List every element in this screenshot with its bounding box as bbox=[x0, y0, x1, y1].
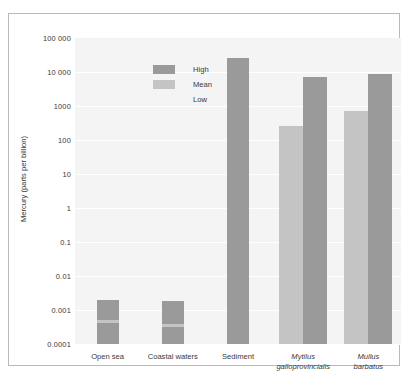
y-tick-label: 10 000 bbox=[15, 68, 71, 77]
y-tick-label: 100 000 bbox=[15, 34, 71, 43]
x-tick-label: Open sea bbox=[91, 352, 124, 362]
y-tick-label: 0.0001 bbox=[15, 340, 71, 349]
y-tick-label: 100 bbox=[15, 136, 71, 145]
y-tick-label: 1000 bbox=[15, 102, 71, 111]
legend-label: Low bbox=[193, 94, 207, 105]
bar-mean bbox=[162, 324, 184, 327]
bar-mean bbox=[344, 111, 368, 344]
bar-high bbox=[303, 77, 327, 344]
legend-label: High bbox=[193, 64, 209, 75]
x-tick-label: Sediment bbox=[222, 352, 254, 362]
y-tick-label: 0.01 bbox=[15, 272, 71, 281]
bar-mean bbox=[97, 320, 119, 323]
legend-label: Mean bbox=[193, 79, 212, 90]
figure-frame: Mercury (parts per billion) 100 00010 00… bbox=[8, 13, 400, 366]
y-tick-label: 0.001 bbox=[15, 306, 71, 315]
bar-mean bbox=[279, 126, 303, 344]
x-tick-label: Mytilusgalloprovincialis bbox=[276, 352, 330, 371]
gridline bbox=[75, 344, 401, 345]
legend-swatch-low bbox=[153, 95, 175, 104]
legend-swatch-high bbox=[153, 65, 175, 74]
y-tick-label: 10 bbox=[15, 170, 71, 179]
legend-swatch-mean bbox=[153, 80, 175, 89]
chart-figure: Mercury (parts per billion) 100 00010 00… bbox=[0, 0, 415, 377]
x-tick-label: Mullusbarbatus bbox=[354, 352, 384, 371]
y-tick-label: 1 bbox=[15, 204, 71, 213]
bar-high bbox=[227, 58, 249, 344]
plot-area: HighMeanLow bbox=[75, 38, 401, 344]
x-tick-label: Coastal waters bbox=[148, 352, 198, 362]
y-tick-label: 0.1 bbox=[15, 238, 71, 247]
bar-high bbox=[368, 74, 392, 344]
